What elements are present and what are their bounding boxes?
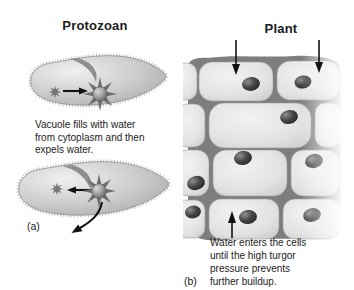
contractile-vacuole: [82, 174, 116, 208]
contractile-vacuole: [83, 77, 117, 111]
protozoan-filling-illustration: [25, 52, 170, 114]
panel-b-label: (b): [184, 275, 197, 287]
protozoan-caption: Vacuole fills with water from cytoplasm …: [35, 119, 185, 157]
small-vacuole-star: [51, 183, 64, 196]
plant-caption: Water enters the cells until the high tu…: [210, 236, 350, 288]
water-entering-cell-arrow: [232, 40, 240, 75]
small-vacuole-star: [49, 86, 62, 99]
water-entering-cell-arrow: [228, 211, 236, 238]
figure-canvas: Protozoan Vacuole fills with water from …: [0, 0, 354, 290]
panel-a-label: (a): [27, 220, 40, 232]
protozoan-title: Protozoan: [35, 18, 155, 33]
water-entering-cell-arrow: [315, 40, 323, 73]
